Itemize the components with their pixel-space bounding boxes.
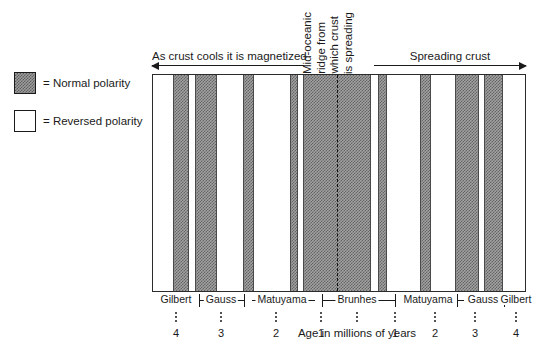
epoch-tick (395, 294, 396, 307)
mid-ocean-ridge-axis (337, 75, 338, 291)
epoch-label: Brunhes (335, 293, 378, 305)
epoch-tick (244, 294, 245, 307)
right-arrow-head-icon (519, 62, 527, 70)
epoch-scale: GilbertGaussMatuyamaBrunhesMatuyamaGauss… (152, 293, 526, 309)
age-tick-dots (515, 310, 517, 322)
age-tick-label: 4 (173, 327, 179, 339)
age-tick-label: 4 (513, 327, 519, 339)
epoch-label: Gilbert (499, 293, 534, 305)
age-axis-title: Age in millions of years (298, 327, 416, 339)
epoch-label: Gauss (466, 293, 500, 305)
age-axis: Age in millions of years 43211234 (152, 310, 526, 344)
ridge-caption: Mid-oceanic ridge from which crust is sp… (302, 2, 374, 74)
age-tick-dots (434, 310, 436, 322)
polarity-stripe-normal (378, 75, 386, 291)
age-tick-label: 3 (472, 327, 478, 339)
polarity-stripe-normal (290, 75, 298, 291)
ridge-caption-line-1: Mid-oceanic (302, 12, 314, 74)
epoch-label: Gilbert (159, 293, 194, 305)
normal-polarity-swatch (14, 72, 36, 94)
age-tick-dots (175, 310, 177, 322)
ridge-caption-line-3: which crust (329, 16, 341, 74)
polarity-stripe-normal (243, 75, 254, 291)
left-arrow-line (152, 65, 304, 66)
age-tick-label: 3 (218, 327, 224, 339)
right-arrow-caption: Spreading crust (374, 50, 526, 62)
age-tick-dots (320, 310, 322, 322)
epoch-label: Gauss (204, 293, 238, 305)
ridge-caption-line-4: is spreading (343, 12, 355, 74)
polarity-stripe-reversed (217, 75, 242, 291)
legend-item-reversed-label: = Reversed polarity (43, 115, 142, 127)
age-tick-label: 2 (432, 327, 438, 339)
legend-item-reversed: = Reversed polarity (14, 108, 164, 134)
diagram-canvas: = Normal polarity = Reversed polarity As… (0, 0, 555, 349)
left-arrow-caption: As crust cools it is magnetized (152, 50, 304, 62)
age-tick-dots (275, 310, 277, 322)
top-annotations: As crust cools it is magnetized Spreadin… (0, 0, 555, 75)
age-tick-dots (474, 310, 476, 322)
polarity-stripe-normal (195, 75, 217, 291)
right-spreading-arrow: Spreading crust (374, 44, 526, 70)
reversed-polarity-swatch (14, 110, 36, 132)
ridge-caption-line-2: ridge from (316, 22, 328, 74)
age-tick-dots-center (356, 310, 358, 322)
polarity-stripe-reversed (371, 75, 378, 291)
polarity-stripe-normal (420, 75, 431, 291)
epoch-rule (322, 300, 330, 301)
left-spreading-arrow: As crust cools it is magnetized (152, 44, 304, 70)
polarity-stripe-normal (455, 75, 479, 291)
polarity-stripe-reversed (503, 75, 525, 291)
polarity-stripe-reversed (431, 75, 455, 291)
polarity-stripe-normal (173, 75, 190, 291)
right-arrow-line (374, 65, 526, 66)
age-tick-label: 1 (318, 327, 324, 339)
polarity-stripe-chart (152, 74, 526, 292)
age-tick-label: 2 (273, 327, 279, 339)
polarity-stripe-reversed (387, 75, 421, 291)
polarity-stripe-normal (484, 75, 502, 291)
age-tick-label: 1 (392, 327, 398, 339)
epoch-label: Matuyama (255, 293, 308, 305)
legend: = Normal polarity = Reversed polarity (14, 70, 164, 146)
polarity-stripe-reversed (254, 75, 290, 291)
legend-item-normal-label: = Normal polarity (43, 77, 130, 89)
epoch-label: Matuyama (401, 293, 454, 305)
left-arrow-head-icon (151, 62, 159, 70)
age-tick-dots (220, 310, 222, 322)
epoch-rule (457, 300, 464, 301)
age-tick-dots (394, 310, 396, 322)
polarity-stripe-reversed (153, 75, 173, 291)
